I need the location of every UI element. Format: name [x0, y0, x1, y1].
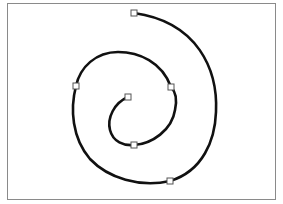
spiral-curve[interactable] — [73, 13, 216, 183]
handle-inner-bottom[interactable] — [131, 142, 137, 148]
handle-bottom-right[interactable] — [167, 178, 173, 184]
spiral-drawing — [0, 0, 283, 204]
handle-inner-right[interactable] — [168, 84, 174, 90]
handle-center[interactable] — [125, 94, 131, 100]
handle-left[interactable] — [73, 83, 79, 89]
handle-top[interactable] — [131, 10, 137, 16]
